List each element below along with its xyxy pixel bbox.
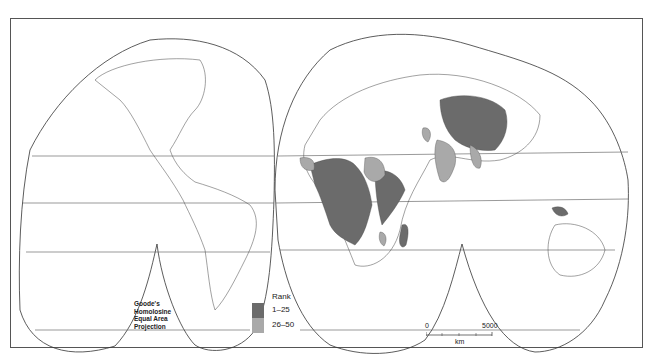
region-pakistan bbox=[422, 128, 430, 142]
legend-swatch-rank-1-25 bbox=[252, 303, 264, 318]
legend: Rank 1–25 26–50 bbox=[252, 292, 342, 342]
region-china bbox=[440, 96, 507, 151]
region-india bbox=[435, 140, 456, 182]
projection-label-line: Goode's bbox=[134, 300, 194, 308]
region-mozambique bbox=[379, 232, 386, 246]
region-madagascar bbox=[399, 224, 408, 247]
scale-end: 5000 bbox=[482, 322, 498, 329]
scale-bar: 0 5000 km bbox=[422, 322, 502, 352]
projection-label-line: Equal Area bbox=[134, 315, 194, 323]
projection-label-line: Projection bbox=[134, 323, 194, 331]
region-central-africa bbox=[310, 159, 372, 245]
legend-label-rank-26-50: 26–50 bbox=[272, 320, 294, 329]
legend-label-rank-1-25: 1–25 bbox=[272, 305, 290, 314]
region-west-africa bbox=[300, 158, 314, 171]
scale-start: 0 bbox=[425, 322, 429, 329]
legend-swatch-rank-26-50 bbox=[252, 318, 264, 333]
projection-label: Goode's Homolosine Equal Area Projection bbox=[134, 300, 194, 330]
scale-unit: km bbox=[455, 338, 464, 345]
region-sudan bbox=[364, 157, 385, 181]
projection-label-line: Homolosine bbox=[134, 308, 194, 316]
region-png bbox=[552, 207, 568, 216]
legend-title: Rank bbox=[272, 292, 291, 301]
